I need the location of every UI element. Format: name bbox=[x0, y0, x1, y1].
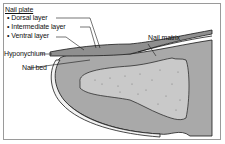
label-dorsal-layer: Dorsal layer bbox=[7, 14, 48, 22]
label-ventral-layer: Ventral layer bbox=[7, 32, 49, 40]
label-nail-bed: Nail bed bbox=[22, 64, 47, 72]
nail-plate-title: Nail plate bbox=[5, 6, 33, 14]
label-intermediate-layer: Intermediate layer bbox=[7, 23, 66, 31]
label-nail-matrix: Nail matrix bbox=[148, 34, 180, 42]
label-hyponychium: Hyponychium bbox=[4, 50, 45, 58]
